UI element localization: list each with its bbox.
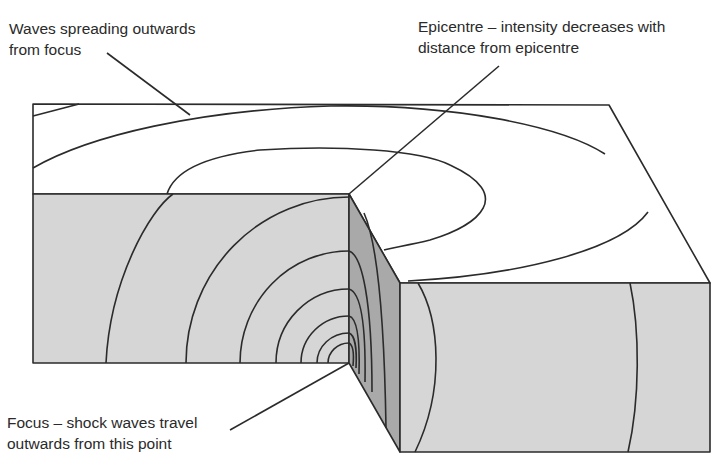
earthquake-diagram: Waves spreading outwards from focus Epic… <box>0 0 728 473</box>
focus-label: Focus – shock waves travel outwards from… <box>7 412 197 454</box>
block-diagram-graphic <box>0 0 728 473</box>
epicentre-label: Epicentre – intensity decreases with dis… <box>418 16 665 58</box>
front-left-face <box>33 194 349 363</box>
waves-label-line1: Waves spreading outwards <box>9 20 195 37</box>
focus-label-line1: Focus – shock waves travel <box>7 414 197 431</box>
waves-label-line2: from focus <box>9 41 81 58</box>
focus-leader-line <box>230 363 349 430</box>
epicentre-label-line1: Epicentre – intensity decreases with <box>418 18 665 35</box>
waves-label: Waves spreading outwards from focus <box>9 18 195 60</box>
front-right-face <box>400 283 710 452</box>
focus-label-line2: outwards from this point <box>7 435 172 452</box>
epicentre-label-line2: distance from epicentre <box>418 39 579 56</box>
